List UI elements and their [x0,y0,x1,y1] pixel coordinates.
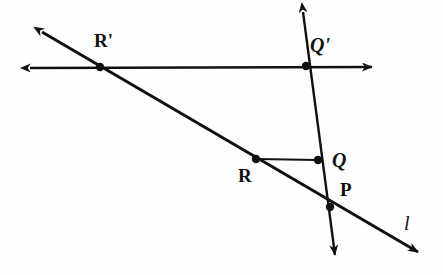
point-marker-r [252,155,260,163]
point-label-r-prime: R' [94,31,113,50]
point-marker-q [314,156,322,164]
geometry-diagram: R' Q' Q P R l [0,0,443,275]
point-marker-r-prime [96,63,104,71]
segments-group [30,12,418,255]
point-label-q: Q [332,150,346,170]
diagram-canvas [0,0,443,275]
point-label-r: R [238,166,252,185]
segment-R-to-Q [256,159,318,160]
point-label-p: P [340,180,352,199]
point-marker-p [326,203,334,211]
point-marker-q-prime [302,62,310,70]
point-label-q-prime: Q' [310,35,330,55]
line-label-l: l [404,213,410,233]
horizontal-line-through-Rprime-Qprime [30,67,372,68]
